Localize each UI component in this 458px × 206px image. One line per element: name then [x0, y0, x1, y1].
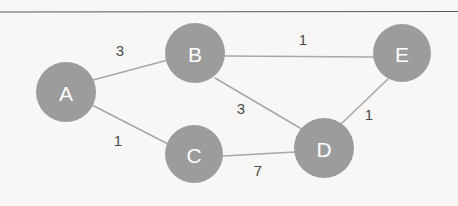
graph-edge — [93, 60, 168, 80]
edge-weight-label: 3 — [116, 42, 124, 59]
top-horizontal-rule — [0, 12, 458, 13]
node-label: A — [59, 82, 73, 105]
nodes-layer: ABCDE — [36, 23, 431, 183]
node-label: D — [316, 138, 331, 161]
node-label: E — [395, 43, 409, 66]
edge-weight-label: 3 — [237, 100, 245, 117]
graph-edge — [223, 152, 295, 156]
graph-diagram: ABCDE 311371 — [0, 0, 458, 206]
graph-edge — [215, 78, 305, 131]
graph-node-d[interactable]: D — [294, 118, 354, 178]
edge-weight-label: 7 — [254, 162, 262, 179]
graph-node-b[interactable]: B — [165, 23, 225, 83]
graph-node-e[interactable]: E — [373, 24, 431, 82]
node-label: B — [188, 43, 202, 66]
edge-weight-label: 1 — [114, 132, 122, 149]
graph-edge — [225, 56, 373, 57]
node-label: C — [186, 144, 201, 167]
edge-weight-label: 1 — [365, 106, 373, 123]
graph-node-a[interactable]: A — [36, 62, 96, 122]
figure-canvas: ABCDE 311371 — [0, 0, 458, 206]
edge-weight-label: 1 — [299, 31, 307, 48]
graph-node-c[interactable]: C — [165, 125, 223, 183]
graph-edge — [92, 105, 168, 144]
